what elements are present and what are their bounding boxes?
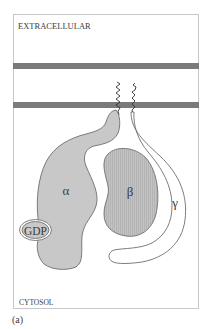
cytosol-label: CYTOSOL [19, 298, 54, 307]
membrane-outer-layer [13, 63, 199, 69]
extracellular-label: EXTRACELLULAR [18, 21, 91, 31]
beta-label: β [127, 184, 134, 199]
membrane-inner-layer [13, 102, 199, 108]
gamma-label: γ [171, 195, 178, 210]
alpha-label: α [63, 183, 70, 198]
gdp-label: GDP [24, 225, 47, 237]
g-protein-diagram: γ β α GDP EXTRACELLULAR CYTOSOL (a) [0, 0, 211, 329]
panel-label: (a) [12, 314, 23, 326]
